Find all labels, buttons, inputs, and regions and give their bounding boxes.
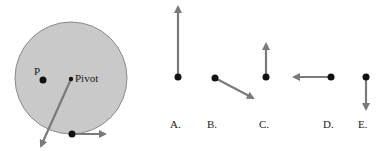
choice-c-vector[interactable]: [263, 44, 270, 81]
choice-a-label[interactable]: A.: [170, 119, 181, 130]
rim-point-dot-icon: [69, 131, 76, 138]
choice-c-dot-icon: [263, 74, 270, 81]
choice-d-vector[interactable]: [294, 74, 335, 81]
choice-d-dot-icon: [328, 74, 335, 81]
physics-diagram: P Pivot A. B. C. D. E.: [0, 0, 386, 151]
choice-a-vector[interactable]: [175, 7, 182, 81]
pivot-label: Pivot: [75, 73, 98, 84]
choice-c-label[interactable]: C.: [259, 119, 269, 130]
choice-d-label[interactable]: D.: [323, 119, 334, 130]
choice-b-vector[interactable]: [212, 75, 254, 99]
choice-b-dot-icon: [212, 75, 219, 82]
choice-e-dot-icon: [363, 74, 370, 81]
choice-b-arrow-icon: [215, 78, 253, 98]
point-p-label: P: [34, 66, 40, 77]
answer-choice-arrows: [175, 7, 370, 109]
choice-e-vector[interactable]: [363, 74, 370, 110]
choice-b-label[interactable]: B.: [207, 119, 217, 130]
choice-e-label[interactable]: E.: [358, 119, 367, 130]
point-p-dot-icon: [40, 77, 47, 84]
pivot-dot-icon: [69, 77, 73, 81]
choice-a-dot-icon: [175, 74, 182, 81]
